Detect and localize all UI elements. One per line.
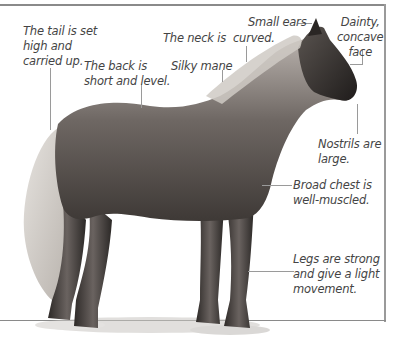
tail-leader-line — [50, 68, 51, 130]
face-leader-line-h — [350, 64, 363, 65]
label-ears: Small ears — [248, 15, 306, 30]
legs-leader-line — [248, 271, 294, 272]
label-face: Dainty, concave face — [337, 15, 384, 60]
label-back: The back is short and level. — [84, 59, 170, 89]
label-chest: Broad chest is well-muscled. — [293, 178, 372, 208]
label-legs: Legs are strong and give a light movemen… — [293, 252, 380, 297]
chest-leader-line — [262, 185, 292, 186]
fore-leg-left — [196, 205, 224, 324]
neck-leader-line — [246, 46, 247, 62]
label-nostrils: Nostrils are large. — [318, 137, 381, 167]
label-neck: The neck is curved. — [163, 31, 275, 46]
label-mane: Silky mane — [171, 59, 232, 74]
nostrils-leader-line — [357, 104, 358, 134]
